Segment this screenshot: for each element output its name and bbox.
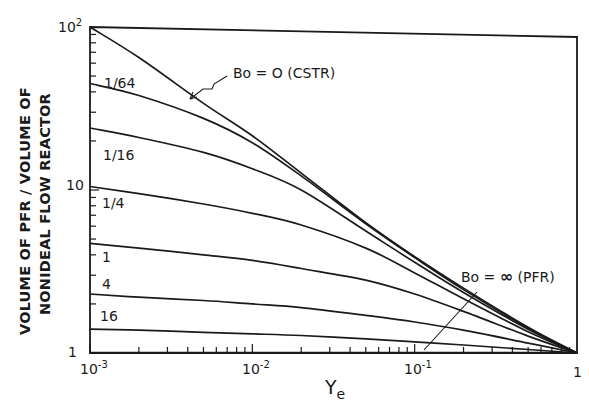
y-tick-labels: 102 10 1 xyxy=(58,17,84,360)
x-tick-0001: 10-3 xyxy=(80,359,108,377)
curve-label-1-4: 1/4 xyxy=(102,195,125,211)
cstr-leader-arrow xyxy=(190,76,227,99)
x-tick-1: 1 xyxy=(573,364,582,380)
y-axis-title-line2: NONIDEAL FLOW REACTOR xyxy=(37,93,53,315)
y-tick-100: 102 xyxy=(58,17,82,35)
curve-bo-4 xyxy=(90,294,577,353)
curve-label-1: 1 xyxy=(102,249,111,265)
pfr-annotation-text: Bo = ∞ (PFR) xyxy=(461,267,555,286)
curve-label-4: 4 xyxy=(102,276,111,292)
curve-label-1-64: 1/64 xyxy=(104,75,136,91)
curve-labels: 1/64 1/16 1/4 1 4 16 xyxy=(100,75,136,324)
x-tick-001: 10-2 xyxy=(242,359,270,377)
y-axis-title: VOLUME OF PFR / VOLUME OF NONIDEAL FLOW … xyxy=(17,87,53,335)
curve-label-16: 16 xyxy=(100,308,118,324)
x-axis-title: Ye xyxy=(324,376,345,402)
y-tick-10: 10 xyxy=(66,177,84,193)
curve-bo-16 xyxy=(90,329,577,353)
y-axis-title-line1: VOLUME OF PFR / VOLUME OF xyxy=(17,87,33,335)
y-axis-ticks xyxy=(90,34,99,353)
cstr-annotation-text: Bo = O (CSTR) xyxy=(233,65,335,81)
curve-label-1-16: 1/16 xyxy=(103,147,135,163)
x-tick-01: 10-1 xyxy=(404,359,432,377)
bodenstein-volume-ratio-chart: 102 10 1 10-3 10-2 10-1 1 Ye VOLUME OF P… xyxy=(0,0,589,408)
cstr-annotation: Bo = O (CSTR) xyxy=(190,65,335,99)
y-tick-1: 1 xyxy=(68,344,77,360)
